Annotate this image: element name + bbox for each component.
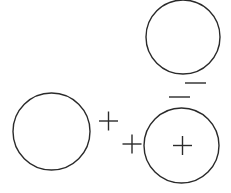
minus-signs-group	[169, 83, 206, 97]
circles-group	[13, 0, 220, 183]
plus-between-icon	[99, 112, 118, 131]
top-right-circle	[146, 0, 220, 74]
left-circle	[13, 93, 90, 170]
plus-outside-bottom-circle-icon	[123, 135, 142, 154]
plus-inside-bottom-circle-icon	[173, 136, 192, 155]
charge-diagram	[0, 0, 231, 193]
